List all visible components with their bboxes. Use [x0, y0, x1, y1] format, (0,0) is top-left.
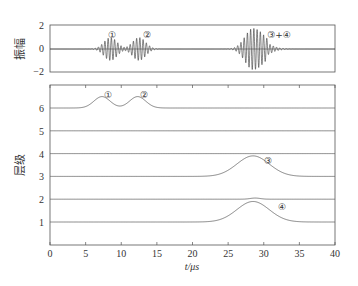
top-ytick-neg2: −2: [33, 66, 44, 77]
annot-top-34: ③+④: [267, 30, 291, 40]
bottom-panel: 0510152025303540 6 5 4 3 2 1 层级 ① ② ③ ④ …: [14, 85, 340, 272]
ytick-4: 4: [39, 149, 44, 160]
ytick-1: 1: [39, 217, 44, 228]
top-panel: 2 0 −2 振幅 ① ② ③+④: [13, 20, 335, 77]
x-tick-label-35: 35: [294, 248, 304, 259]
chart-figure: 2 0 −2 振幅 ① ② ③+④ 0510152025303540 6 5 4…: [0, 0, 358, 286]
level-curve-6: [50, 97, 335, 108]
annot-bottom-2: ②: [140, 90, 148, 100]
top-ytick-2: 2: [39, 20, 44, 31]
ytick-5: 5: [39, 126, 44, 137]
level-curve-2: [50, 198, 335, 199]
level-curve-3: [50, 156, 335, 177]
x-tick-label-30: 30: [259, 248, 269, 259]
annot-bottom-4: ④: [278, 202, 286, 212]
top-plot-frame: [50, 25, 335, 72]
level-curves: [50, 97, 335, 222]
annot-bottom-1: ①: [104, 90, 112, 100]
ytick-2: 2: [39, 194, 44, 205]
x-tick-label-0: 0: [48, 248, 53, 259]
x-axis-label: t/μs: [185, 261, 200, 272]
x-ticks: 0510152025303540: [48, 85, 341, 259]
x-tick-label-25: 25: [223, 248, 233, 259]
annot-top-2: ②: [143, 30, 151, 40]
level-curve-1: [50, 201, 335, 222]
annot-top-1: ①: [108, 30, 116, 40]
top-waveform: [50, 28, 335, 69]
x-tick-label-15: 15: [152, 248, 162, 259]
bottom-ylabel: 层级: [14, 154, 27, 176]
x-tick-label-10: 10: [116, 248, 126, 259]
x-tick-label-20: 20: [188, 248, 198, 259]
ytick-6: 6: [39, 103, 44, 114]
x-tick-label-5: 5: [83, 248, 88, 259]
x-tick-label-40: 40: [330, 248, 340, 259]
annot-bottom-3: ③: [264, 156, 272, 166]
top-ylabel: 振幅: [13, 38, 27, 60]
top-ytick-0: 0: [39, 43, 44, 54]
ytick-3: 3: [39, 171, 44, 182]
